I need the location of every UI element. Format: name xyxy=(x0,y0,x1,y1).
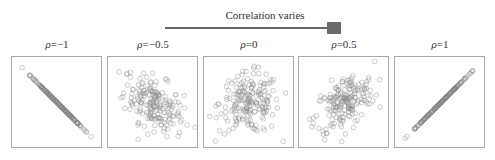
rho-value: =0 xyxy=(246,38,258,50)
panel-title: ρ=1 xyxy=(394,38,486,50)
slider-title: Correlation varies xyxy=(200,9,330,21)
rho-value: =−1 xyxy=(51,38,69,50)
scatter-plot-panel xyxy=(203,56,294,148)
rho-value: =1 xyxy=(437,38,449,50)
rho-value: =−0.5 xyxy=(143,38,169,50)
scatter-plot-panel xyxy=(107,56,198,148)
rho-value: =0.5 xyxy=(337,38,357,50)
slider-thumb[interactable] xyxy=(327,22,341,34)
slider-track[interactable] xyxy=(165,27,329,29)
panel-title: ρ=−1 xyxy=(11,38,103,50)
panel-title: ρ=−0.5 xyxy=(107,38,199,50)
scatter-plot-panel xyxy=(298,56,389,148)
scatter-plot-panel xyxy=(11,56,102,148)
panel-title: ρ=0.5 xyxy=(298,38,390,50)
scatter-plot-panel xyxy=(394,56,485,148)
panel-title: ρ=0 xyxy=(203,38,295,50)
